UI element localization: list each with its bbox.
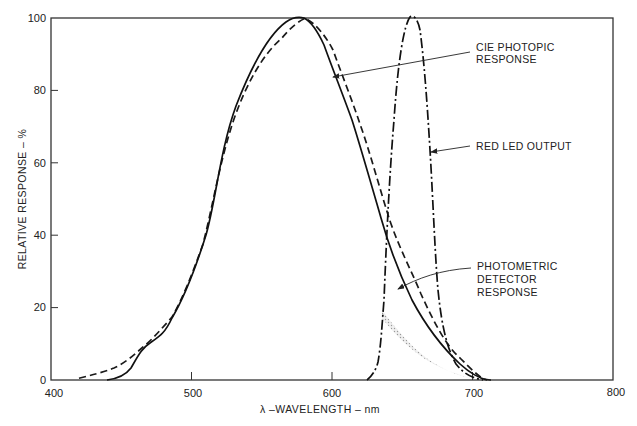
led-annotation: RED LED OUTPUT (476, 140, 572, 152)
led-annotation-leader (431, 146, 470, 152)
x-tick-500: 500 (184, 387, 202, 399)
x-axis-label: λ –WAVELENGTH – nm (260, 403, 380, 415)
cie-annotation-line2: RESPONSE (476, 53, 537, 65)
y-axis-label: RELATIVE RESPONSE – % (16, 129, 28, 270)
y-tick-80: 80 (34, 84, 46, 96)
x-tick-700: 700 (465, 387, 483, 399)
y-tick-20: 20 (34, 301, 46, 313)
plot-frame (51, 18, 613, 380)
spectral-response-chart: 100 80 60 40 20 0 400 500 600 700 800 λ … (0, 0, 637, 426)
x-axis-ticks (192, 372, 473, 380)
cie-photopic-curve (79, 19, 491, 381)
y-tick-0: 0 (40, 374, 46, 386)
y-tick-60: 60 (34, 157, 46, 169)
cie-annotation-leader (333, 52, 470, 77)
detector-annotation-line2: DETECTOR (477, 273, 537, 285)
detector-annotation-leader (398, 268, 471, 289)
cie-annotation-line1: CIE PHOTOPIC (476, 41, 555, 53)
x-tick-600: 600 (323, 387, 341, 399)
x-tick-400: 400 (45, 387, 63, 399)
detector-annotation-line1: PHOTOMETRIC (477, 260, 558, 272)
red-led-output-curve (367, 16, 483, 380)
y-tick-100: 100 (28, 12, 46, 24)
x-tick-800: 800 (607, 386, 625, 398)
detector-annotation-line3: RESPONSE (477, 286, 538, 298)
y-tick-40: 40 (34, 229, 46, 241)
y-axis-ticks (51, 90, 58, 307)
